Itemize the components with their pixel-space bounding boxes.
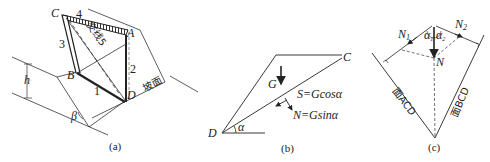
vertex-a: A bbox=[126, 26, 135, 40]
edge-1-label: 1 bbox=[94, 84, 100, 98]
n1-label: N1 bbox=[397, 27, 410, 42]
edge-4-label: 4 bbox=[76, 7, 82, 21]
caption-b: (b) bbox=[281, 142, 294, 155]
vertex-d: D bbox=[126, 88, 136, 102]
n-label: N bbox=[435, 55, 445, 69]
normal-force-label: N=Gsinα bbox=[292, 108, 339, 122]
vertex-c-b: C bbox=[343, 50, 352, 64]
vertex-c: C bbox=[51, 6, 60, 20]
alpha-label: α bbox=[238, 120, 245, 134]
alpha1-label: α1 bbox=[424, 28, 433, 42]
panel-b: α D C G S=Gcosα N=Gsinα (b) bbox=[170, 50, 352, 155]
shear-force-label: S=Gcosα bbox=[297, 87, 343, 101]
n2-label: N2 bbox=[454, 17, 467, 32]
weight-label: G bbox=[268, 77, 277, 91]
beta-label: β bbox=[70, 109, 77, 123]
slope-surface-label: 坡面 bbox=[140, 74, 163, 94]
caption-c: (c) bbox=[428, 141, 441, 154]
alpha2-label: α2 bbox=[436, 28, 445, 42]
vertex-d-b: D bbox=[207, 126, 217, 140]
intersection-line-label: 交线5 bbox=[84, 19, 109, 47]
panel-c: N1 N2 N α1 α2 面ACD 面BCD (c) bbox=[372, 17, 484, 154]
edge-3-label: 3 bbox=[59, 37, 65, 51]
edge-2-label: 2 bbox=[130, 62, 136, 76]
caption-a: (a) bbox=[109, 140, 122, 153]
face-acd-label: 面ACD bbox=[390, 86, 418, 118]
vertex-b: B bbox=[67, 68, 75, 82]
wedge-stability-figure: h β C A B D 1 2 3 4 交线5 坡面 (a) bbox=[0, 0, 490, 162]
panel-a: h β C A B D 1 2 3 4 交线5 坡面 (a) bbox=[12, 6, 165, 153]
height-label: h bbox=[24, 73, 30, 87]
